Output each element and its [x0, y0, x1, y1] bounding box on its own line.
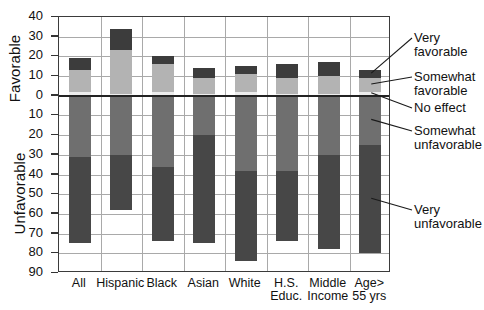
y-axis-tick: [51, 173, 58, 175]
y-axis-tick-label: 50: [15, 185, 43, 200]
segment-somewhat-unfavorable: [69, 96, 91, 157]
segment-somewhat-unfavorable: [110, 96, 132, 155]
y-axis-tick: [51, 16, 58, 18]
segment-somewhat-favorable: [235, 74, 257, 92]
segment-very-unfavorable: [110, 155, 132, 210]
y-axis-tick-label: 80: [15, 244, 43, 259]
bar-middle-income: [318, 17, 340, 273]
plot-area: [58, 16, 390, 272]
vertical-gridline: [225, 17, 226, 271]
legend-label-somewhat-unfavorable: Somewhat unfavorable: [414, 124, 482, 152]
vertical-gridline: [350, 17, 351, 271]
vertical-gridline: [142, 17, 143, 271]
y-axis-tick: [51, 75, 58, 77]
y-axis-tick-label: 90: [15, 264, 43, 279]
segment-somewhat-favorable: [276, 78, 298, 94]
y-axis-tick-label: 30: [15, 146, 43, 161]
vertical-gridline: [267, 17, 268, 271]
y-axis-tick: [51, 252, 58, 254]
segment-somewhat-favorable: [69, 70, 91, 92]
segment-somewhat-favorable: [359, 78, 381, 92]
y-axis-tick: [51, 134, 58, 136]
segment-somewhat-favorable: [193, 78, 215, 94]
bar-age-55-yrs: [359, 17, 381, 273]
x-axis-label-age-55-yrs: Age> 55 yrs: [339, 277, 399, 303]
segment-somewhat-unfavorable: [193, 96, 215, 135]
y-axis-tick-label: 30: [15, 28, 43, 43]
bar-black: [152, 17, 174, 273]
y-axis-tick-label: 10: [15, 67, 43, 82]
bar-h-s-educ-: [276, 17, 298, 273]
y-axis-tick: [51, 212, 58, 214]
segment-very-unfavorable: [235, 171, 257, 262]
segment-very-favorable: [235, 66, 257, 74]
bar-all: [69, 17, 91, 273]
y-axis-tick: [51, 35, 58, 37]
vertical-gridline: [101, 17, 102, 271]
stacked-bar-chart: Favorable Unfavorable 403020100102030405…: [0, 0, 484, 310]
bar-white: [235, 17, 257, 273]
y-axis-tick-label: 70: [15, 225, 43, 240]
segment-somewhat-unfavorable: [359, 96, 381, 145]
y-axis-tick-label: 40: [15, 166, 43, 181]
segment-very-favorable: [110, 29, 132, 51]
segment-somewhat-unfavorable: [152, 96, 174, 167]
y-axis-tick: [51, 55, 58, 57]
segment-very-favorable: [276, 64, 298, 78]
legend-label-very-unfavorable: Very unfavorable: [414, 203, 482, 231]
segment-somewhat-favorable: [152, 64, 174, 92]
y-axis-tick-label: 10: [15, 106, 43, 121]
y-axis-tick: [51, 94, 58, 96]
segment-very-unfavorable: [276, 171, 298, 242]
segment-very-unfavorable: [152, 167, 174, 242]
segment-somewhat-unfavorable: [318, 96, 340, 155]
y-axis-tick: [51, 193, 58, 195]
legend-label-no-effect: No effect: [414, 101, 466, 115]
vertical-gridline: [184, 17, 185, 271]
segment-somewhat-favorable: [110, 50, 132, 93]
segment-very-favorable: [359, 70, 381, 78]
y-axis-tick: [51, 272, 58, 274]
segment-very-unfavorable: [318, 155, 340, 250]
segment-very-favorable: [193, 68, 215, 78]
y-axis-tick-label: 0: [15, 87, 43, 102]
segment-very-favorable: [69, 58, 91, 70]
y-axis-tick: [51, 114, 58, 116]
segment-very-favorable: [318, 62, 340, 76]
segment-very-unfavorable: [359, 145, 381, 253]
segment-somewhat-unfavorable: [276, 96, 298, 171]
y-axis-tick-label: 60: [15, 205, 43, 220]
y-axis-tick: [51, 232, 58, 234]
bar-asian: [193, 17, 215, 273]
y-axis-tick: [51, 153, 58, 155]
segment-very-favorable: [152, 56, 174, 64]
segment-very-unfavorable: [69, 157, 91, 244]
legend-label-very-favorable: Very favorable: [414, 31, 467, 59]
y-axis-tick-label: 20: [15, 126, 43, 141]
vertical-gridline: [308, 17, 309, 271]
y-axis-tick-label: 20: [15, 47, 43, 62]
segment-somewhat-favorable: [318, 76, 340, 94]
legend-label-somewhat-favorable: Somewhat favorable: [414, 70, 475, 98]
segment-very-unfavorable: [193, 135, 215, 243]
y-axis-tick-label: 40: [15, 8, 43, 23]
bar-hispanic: [110, 17, 132, 273]
zero-axis-line: [59, 95, 389, 98]
segment-somewhat-unfavorable: [235, 96, 257, 171]
